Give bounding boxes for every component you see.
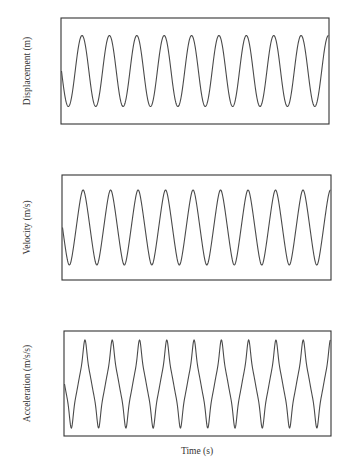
acceleration-trace: [65, 340, 331, 428]
displacement-y-axis-label: Displacement (m): [22, 37, 33, 105]
acceleration-y-axis-label: Acceleration (m/s/s): [22, 345, 33, 422]
displacement-panel: Displacement (m): [22, 18, 329, 124]
velocity-plot-frame: [62, 175, 331, 280]
figure: Displacement (m) Velocity (m/s) Accelera…: [0, 0, 350, 474]
acceleration-panel: Acceleration (m/s/s): [22, 331, 331, 436]
displacement-trace: [62, 36, 329, 107]
velocity-panel: Velocity (m/s): [22, 175, 331, 280]
velocity-trace: [63, 190, 331, 265]
displacement-plot-frame: [61, 18, 329, 124]
time-x-axis-label: Time (s): [181, 446, 213, 457]
velocity-y-axis-label: Velocity (m/s): [22, 200, 33, 254]
